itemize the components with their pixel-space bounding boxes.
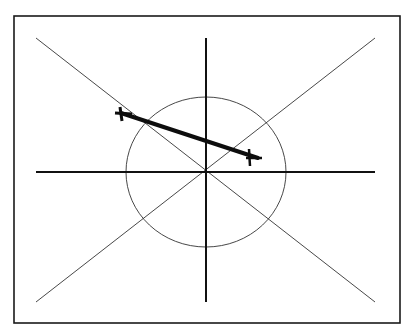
compass-grid-diagram (0, 0, 406, 331)
